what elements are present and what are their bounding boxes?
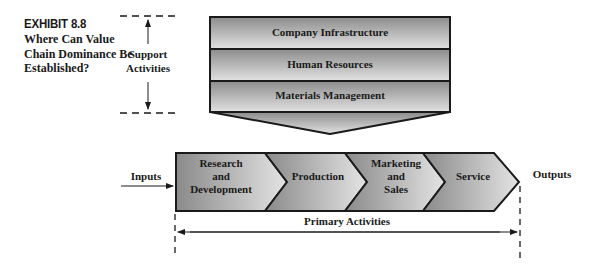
- primary-label-service: Service: [445, 170, 501, 183]
- primary-label-research-development: Research and Development: [176, 157, 266, 196]
- primary-activities-label: Primary Activities: [247, 215, 447, 228]
- support-activities-label: Support Activities: [118, 47, 178, 75]
- value-chain-diagram: [0, 0, 600, 273]
- inputs-label: Inputs: [124, 170, 168, 183]
- support-label-company-infrastructure: Company Infrastructure: [210, 26, 450, 39]
- primary-label-production: Production: [287, 170, 349, 183]
- support-down-chevron: [210, 112, 450, 134]
- outputs-label: Outputs: [527, 168, 577, 181]
- support-label-human-resources: Human Resources: [210, 58, 450, 71]
- primary-label-marketing-sales: Marketing and Sales: [365, 157, 427, 196]
- support-label-materials-management: Materials Management: [210, 89, 450, 102]
